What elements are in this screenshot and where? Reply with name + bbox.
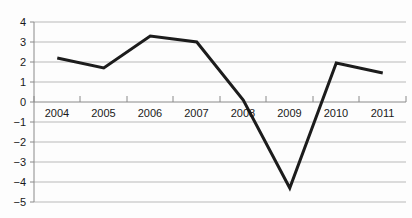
x-tick-label-2007: 2007 [173, 108, 220, 119]
y-tick-label-1: 1 [4, 77, 26, 88]
x-tick-label-2010: 2010 [313, 108, 359, 119]
x-tick-label-2006: 2006 [127, 108, 173, 119]
x-tick-label-2011: 2011 [359, 108, 406, 119]
x-axis-ticks [34, 96, 406, 102]
line-chart: 4 3 2 1 0 −1 −2 −3 −4 −5 2004 2005 2006 … [0, 0, 412, 218]
y-tick-label-neg-5: −5 [4, 197, 26, 208]
y-tick-label-neg-4: −4 [4, 177, 26, 188]
x-tick-label-2004: 2004 [34, 108, 80, 119]
y-tick-label-neg-1: −1 [4, 117, 26, 128]
y-tick-label-neg-3: −3 [4, 157, 26, 168]
y-tick-label-2: 2 [4, 57, 26, 68]
y-tick-label-0: 0 [4, 97, 26, 108]
x-tick-label-2005: 2005 [80, 108, 127, 119]
y-tick-label-neg-2: −2 [4, 137, 26, 148]
y-tick-label-3: 3 [4, 37, 26, 48]
y-tick-label-4: 4 [4, 17, 26, 28]
x-tick-label-2008: 2008 [220, 108, 266, 119]
x-tick-label-2009: 2009 [266, 108, 313, 119]
